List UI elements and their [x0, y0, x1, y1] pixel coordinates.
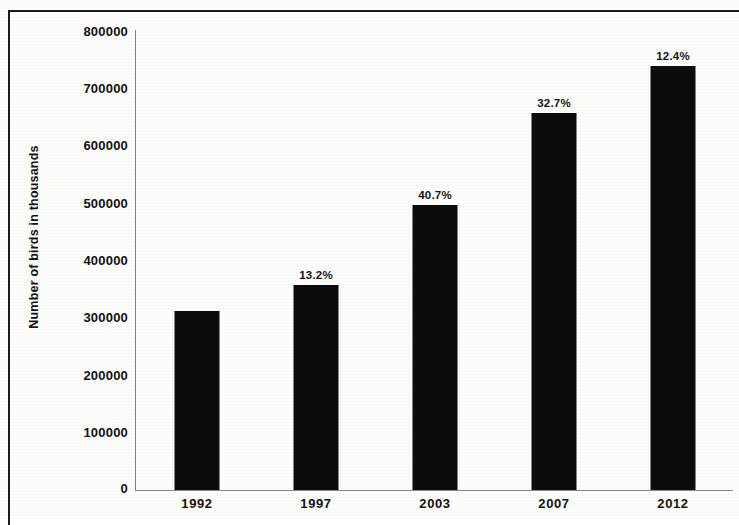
x-tick-label-2012: 2012: [615, 496, 731, 511]
bar-group: 32.7%: [496, 29, 612, 490]
bar-2003[interactable]: [413, 205, 458, 490]
y-axis-line: [135, 30, 136, 490]
y-tick-label: 0: [8, 481, 128, 496]
y-tick-label: 700000: [8, 81, 128, 96]
x-tick-label-1992: 1992: [139, 496, 255, 511]
x-tick-label-1997: 1997: [258, 496, 374, 511]
y-tick-label: 200000: [8, 368, 128, 383]
bar-label-2012: 12.4%: [656, 50, 690, 62]
x-tick-label-2007: 2007: [496, 496, 612, 511]
bar-2007[interactable]: [532, 113, 577, 490]
y-tick-label: 400000: [8, 253, 128, 268]
y-tick-label: 800000: [8, 24, 128, 39]
y-tick-label: 100000: [8, 425, 128, 440]
bar-label-2003: 40.7%: [418, 189, 452, 201]
bar-group: 40.7%: [377, 29, 493, 490]
bar-group: [139, 29, 255, 490]
bar-1992[interactable]: [175, 311, 220, 490]
x-axis-line: [135, 490, 733, 491]
bar-2012[interactable]: [651, 66, 696, 490]
y-tick-label: 600000: [8, 138, 128, 153]
bar-group: 13.2%: [258, 29, 374, 490]
bar-1997[interactable]: [294, 285, 339, 490]
bar-label-2007: 32.7%: [537, 97, 571, 109]
y-tick-label: 500000: [8, 196, 128, 211]
y-tick-label: 300000: [8, 310, 128, 325]
bar-group: 12.4%: [615, 29, 731, 490]
x-tick-label-2003: 2003: [377, 496, 493, 511]
bar-label-1997: 13.2%: [299, 269, 333, 281]
